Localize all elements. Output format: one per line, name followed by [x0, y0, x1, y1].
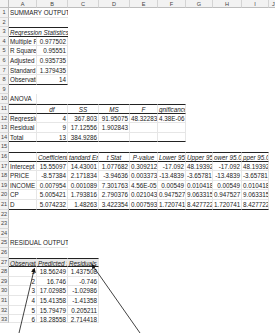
residual-cell[interactable]: 15.79479	[37, 306, 68, 316]
row-number[interactable]: 4	[0, 37, 9, 47]
anova-cell[interactable]: 1.902843	[99, 123, 130, 133]
coef-cell[interactable]: 0.001089	[68, 181, 99, 191]
row-number[interactable]: 5	[0, 46, 9, 56]
coef-cell[interactable]: 0.021043	[130, 190, 158, 200]
anova-header-f[interactable]: F	[130, 104, 158, 114]
row-number[interactable]: 33	[0, 315, 9, 323]
column-header-h[interactable]: H	[213, 0, 242, 8]
row-number[interactable]: 8	[0, 75, 9, 85]
row-number[interactable]: 32	[0, 306, 9, 316]
anova-header[interactable]	[9, 104, 37, 114]
coef-cell[interactable]: -3.65781	[186, 171, 213, 181]
anova-cell[interactable]: Residual	[9, 123, 37, 133]
residual-header-predicted[interactable]: Predicted SAL	[37, 258, 68, 268]
stat-value[interactable]: 0.935735	[37, 56, 68, 66]
stat-label[interactable]: Adjusted I	[9, 56, 37, 66]
residual-cell[interactable]: 16.746	[37, 277, 68, 287]
coef-cell[interactable]: 8.427722	[186, 200, 213, 210]
row-number[interactable]: 25	[0, 238, 9, 248]
row-number[interactable]: 13	[0, 123, 9, 133]
coef-header-lower-95-0[interactable]: ower 95.0%	[213, 152, 242, 162]
row-number[interactable]: 28	[0, 267, 9, 277]
anova-title[interactable]: ANOVA	[9, 94, 37, 104]
coef-cell[interactable]: 0.007954	[37, 181, 68, 191]
row-number[interactable]: 23	[0, 219, 9, 229]
residual-cell[interactable]: -1.02986	[68, 286, 99, 296]
coef-cell[interactable]: Intercept	[9, 162, 37, 172]
coef-cell[interactable]: -3.94636	[99, 171, 130, 181]
row-number[interactable]: 20	[0, 190, 9, 200]
residual-cell[interactable]: 0.205211	[68, 306, 99, 316]
residual-cell[interactable]: -1.41358	[68, 296, 99, 306]
anova-header-df[interactable]: df	[37, 104, 68, 114]
anova-cell[interactable]: 384.9286	[68, 133, 99, 143]
coef-cell[interactable]: 48.19392	[242, 162, 269, 172]
row-number[interactable]: 15	[0, 142, 9, 152]
anova-cell[interactable]: 9	[37, 123, 68, 133]
coef-cell[interactable]: 0.947527	[213, 190, 242, 200]
row-number[interactable]: 6	[0, 56, 9, 66]
residual-cell[interactable]: 4	[9, 296, 37, 306]
coef-cell[interactable]: 0.947527	[158, 190, 186, 200]
anova-cell[interactable]: 48.32283	[130, 114, 158, 124]
residual-header-residuals[interactable]: Residuals	[68, 258, 99, 268]
coef-header-t-stat[interactable]: t Stat	[99, 152, 130, 162]
row-number[interactable]: 12	[0, 114, 9, 124]
coef-cell[interactable]: -13.4839	[213, 171, 242, 181]
stat-label[interactable]: Multiple F	[9, 37, 37, 47]
coef-cell[interactable]: 0.007593	[130, 200, 158, 210]
row-number[interactable]: 2	[0, 18, 9, 28]
row-number[interactable]: 3	[0, 27, 9, 37]
anova-header-significance-f[interactable]: gnificance F	[158, 104, 186, 114]
coef-cell[interactable]: D	[9, 200, 37, 210]
residual-cell[interactable]: 5	[9, 306, 37, 316]
residual-cell[interactable]: 18.56249	[37, 267, 68, 277]
column-header-i[interactable]: I	[242, 0, 269, 8]
stat-value[interactable]: 0.977502	[37, 37, 68, 47]
anova-cell[interactable]: 4.38E-06	[158, 114, 186, 124]
stat-label[interactable]: Standard I	[9, 66, 37, 76]
coef-cell[interactable]: 1.48263	[68, 200, 99, 210]
coef-cell[interactable]: -17.092	[213, 162, 242, 172]
coef-header-standard-error[interactable]: tandard Err	[68, 152, 99, 162]
residual-header-observation[interactable]: Observation	[9, 258, 37, 268]
column-header-d[interactable]: D	[99, 0, 130, 8]
row-number[interactable]: 30	[0, 286, 9, 296]
stat-label[interactable]: R Square	[9, 46, 37, 56]
coef-cell[interactable]: 2.790376	[99, 190, 130, 200]
stat-value[interactable]: 0.95551	[37, 46, 68, 56]
residual-cell[interactable]: 18.28558	[37, 315, 68, 323]
coef-header-upper-95-0[interactable]: pper 95.0%	[242, 152, 269, 162]
coef-header[interactable]	[9, 152, 37, 162]
row-number[interactable]: 9	[0, 85, 9, 95]
row-number[interactable]: 1	[0, 8, 9, 18]
residual-cell[interactable]: 17.02985	[37, 286, 68, 296]
row-number[interactable]: 19	[0, 181, 9, 191]
coef-cell[interactable]: 5.074232	[37, 200, 68, 210]
coef-cell[interactable]: 15.55097	[37, 162, 68, 172]
anova-header-ms[interactable]: MS	[99, 104, 130, 114]
anova-cell[interactable]	[99, 133, 130, 143]
residual-cell[interactable]: -0.746	[68, 277, 99, 287]
coef-header-coefficients[interactable]: Coefficients	[37, 152, 68, 162]
coef-cell[interactable]: 0.003373	[130, 171, 158, 181]
anova-cell[interactable]: 17.12556	[68, 123, 99, 133]
row-number[interactable]: 17	[0, 162, 9, 172]
coef-cell[interactable]: -8.57384	[37, 171, 68, 181]
stat-value[interactable]: 1.379435	[37, 66, 68, 76]
coef-cell[interactable]: PRICE	[9, 171, 37, 181]
coef-cell[interactable]: 9.063315	[242, 190, 269, 200]
coef-cell[interactable]: INCOME	[9, 181, 37, 191]
coef-cell[interactable]: 0.00549	[158, 181, 186, 191]
coef-cell[interactable]: -13.4839	[158, 171, 186, 181]
residual-cell[interactable]: 15.41358	[37, 296, 68, 306]
anova-cell[interactable]	[130, 123, 158, 133]
coef-cell[interactable]: 0.00549	[213, 181, 242, 191]
row-number[interactable]: 24	[0, 229, 9, 239]
column-header-j[interactable]: J	[269, 0, 275, 8]
column-header-a[interactable]: A	[9, 0, 37, 8]
select-all-corner[interactable]	[0, 0, 9, 8]
residual-cell[interactable]: 6	[9, 315, 37, 323]
coef-cell[interactable]: 5.005421	[37, 190, 68, 200]
coef-cell[interactable]: CP	[9, 190, 37, 200]
